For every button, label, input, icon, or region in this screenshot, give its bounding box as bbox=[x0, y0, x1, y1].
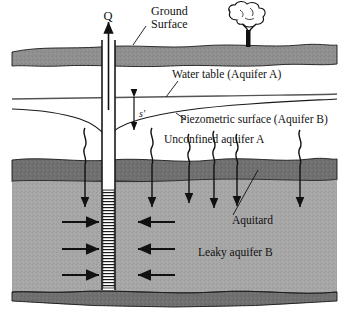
layer-leaky-aquifer-b bbox=[12, 179, 337, 293]
tree bbox=[229, 1, 265, 47]
diagram-canvas: Q Ground Surface Water table (Aquifer A)… bbox=[0, 0, 350, 319]
label-ground-surface-line2: Surface bbox=[151, 17, 188, 31]
label-piezometric-surface: Piezometric surface (Aquifer B) bbox=[180, 113, 328, 126]
label-water-table: Water table (Aquifer A) bbox=[172, 68, 281, 81]
layer-aquitard bbox=[12, 158, 337, 182]
well-screen bbox=[103, 190, 114, 288]
label-discharge: Q bbox=[103, 9, 112, 23]
aquifer-cross-section-figure: Q Ground Surface Water table (Aquifer A)… bbox=[0, 0, 350, 319]
layer-topsoil bbox=[12, 44, 337, 66]
label-drawdown: s′ bbox=[139, 108, 146, 119]
label-ground-surface-line1: Ground bbox=[151, 4, 188, 18]
subsurface-layers bbox=[12, 44, 337, 307]
label-aquitard: Aquitard bbox=[232, 214, 273, 227]
pumping-well bbox=[102, 22, 115, 290]
label-leaky-aquifer: Leaky aquifer B bbox=[198, 246, 273, 259]
layer-bedrock-base bbox=[12, 291, 337, 307]
tree-canopy bbox=[229, 1, 265, 27]
label-unconfined-aquifer: Unconfined aquifer A bbox=[164, 133, 265, 146]
leader-ground-surface bbox=[133, 26, 146, 45]
